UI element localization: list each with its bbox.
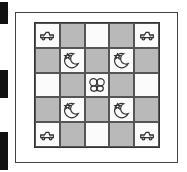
quilt-patch [35, 73, 60, 98]
quilt-patch [85, 48, 110, 73]
quilt-patch [134, 122, 159, 147]
quilt-patch [85, 122, 110, 147]
moon-star-icon [113, 51, 131, 69]
car-icon [38, 26, 56, 44]
quilt-patch [109, 122, 134, 147]
quilt-patch [134, 48, 159, 73]
quilt-patch [85, 73, 110, 98]
moon-star-icon [113, 101, 131, 119]
butterfly-icon [88, 76, 106, 94]
quilt-patch [134, 73, 159, 98]
quilt-patch [109, 48, 134, 73]
quilt-patch [85, 23, 110, 48]
quilt-patch [60, 73, 85, 98]
quilt-patch [35, 122, 60, 147]
quilt-patch [109, 23, 134, 48]
left-edge-bar [0, 132, 8, 170]
car-icon [38, 126, 56, 144]
moon-star-icon [63, 101, 81, 119]
left-edge-bar [0, 70, 8, 98]
left-edge-bar [0, 2, 8, 24]
quilt-patch [60, 97, 85, 122]
car-icon [138, 26, 156, 44]
quilt-patch [60, 23, 85, 48]
quilt-patch [35, 97, 60, 122]
quilt-patch [109, 73, 134, 98]
quilt-patch [109, 97, 134, 122]
quilt-patch [35, 48, 60, 73]
quilt-patch [60, 48, 85, 73]
quilt-patch [35, 23, 60, 48]
quilt-patch [134, 23, 159, 48]
quilt-patch [60, 122, 85, 147]
moon-star-icon [63, 51, 81, 69]
quilt-patch [134, 97, 159, 122]
quilt-illustration [34, 22, 160, 148]
quilt-patch [85, 97, 110, 122]
car-icon [138, 126, 156, 144]
